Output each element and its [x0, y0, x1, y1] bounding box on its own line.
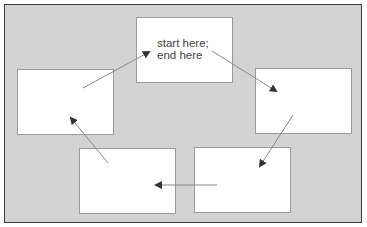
- arrow-left-to-top: [83, 52, 149, 88]
- arrow-bottom-left-to-left: [71, 118, 108, 163]
- arrow-right-to-bottom-right: [260, 115, 293, 166]
- arrows-layer: [0, 0, 367, 227]
- arrow-top-to-right: [212, 51, 276, 91]
